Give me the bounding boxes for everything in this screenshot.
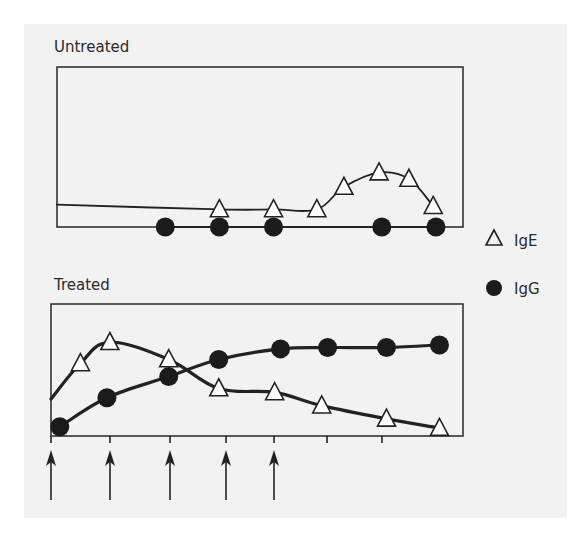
- untreated-plot-frame: [57, 67, 463, 227]
- igg-circle-marker: [377, 338, 396, 357]
- igg-circle-marker: [209, 350, 228, 369]
- ige-triangle-marker: [265, 200, 283, 217]
- legend: IgE IgG: [486, 230, 540, 298]
- treated-plot-frame: [51, 304, 463, 436]
- igg-line: [60, 345, 440, 427]
- ige-triangle-marker: [400, 169, 418, 186]
- igg-circle-marker: [271, 339, 290, 358]
- igg-circle-marker: [318, 338, 337, 357]
- igg-circle-marker: [426, 218, 445, 237]
- igg-circle-marker: [159, 367, 178, 386]
- untreated-title: Untreated: [54, 38, 129, 56]
- igg-circle-marker: [430, 335, 449, 354]
- figure: Untreated IgE IgG Treated: [0, 0, 580, 535]
- legend-circle-icon: [486, 280, 502, 296]
- legend-label-igg: IgG: [514, 280, 540, 298]
- ige-triangle-marker: [210, 200, 228, 217]
- untreated-plot-area: [57, 163, 445, 237]
- legend-label-ige: IgE: [514, 232, 537, 250]
- treated-plot-area: [50, 333, 449, 437]
- igg-circle-marker: [264, 218, 283, 237]
- ige-triangle-marker: [308, 200, 326, 217]
- treatment-arrows: [46, 450, 279, 500]
- igg-circle-marker: [50, 417, 69, 436]
- ige-triangle-marker: [335, 177, 353, 194]
- legend-triangle-icon: [486, 230, 502, 245]
- igg-circle-marker: [97, 388, 116, 407]
- igg-circle-marker: [210, 218, 229, 237]
- treated-title: Treated: [53, 276, 110, 294]
- igg-circle-marker: [156, 218, 175, 237]
- treated-x-ticks: [51, 436, 382, 443]
- igg-circle-marker: [372, 218, 391, 237]
